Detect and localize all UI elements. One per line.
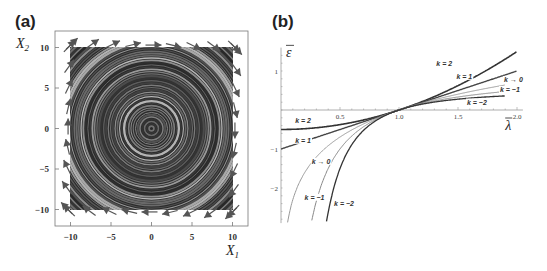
x-tick-label: −5	[106, 232, 116, 242]
panel-b-label: (b)	[272, 12, 294, 32]
curve-label: k = −1	[500, 86, 520, 93]
y-tick-label: −1	[271, 146, 279, 154]
series-line-k1	[281, 71, 516, 149]
curve-label: k = −2	[334, 200, 354, 207]
x-tick-label: 0.5	[336, 113, 345, 121]
x-tick-label: 1.5	[454, 113, 463, 121]
y-axis-title: ε	[286, 45, 292, 60]
x-tick-label: 2.0	[513, 113, 522, 121]
y-tick-label: −10	[35, 205, 50, 215]
x-axis-title: X1	[225, 243, 239, 260]
curve-label: k = 1	[295, 137, 311, 144]
y-tick-label: −2	[271, 185, 279, 193]
curve-label: k = 1	[456, 73, 472, 80]
series-line-k2	[281, 52, 516, 130]
y-tick-label: −5	[39, 164, 49, 174]
x-tick-label: 5	[190, 232, 195, 242]
streamline-plot: −10−50510−10−50510 X2 X1	[0, 0, 270, 271]
y-tick-label: 1	[275, 68, 279, 76]
x-tick-label: −10	[63, 232, 78, 242]
series-line-k0	[288, 85, 505, 222]
curve-label: k = −1	[305, 194, 325, 201]
curve-label: k = 2	[295, 117, 311, 124]
series-line-k-2	[327, 96, 505, 221]
series-line-k-1	[312, 92, 505, 221]
curve-label: k → 0	[504, 76, 523, 83]
y-tick-label: 10	[40, 43, 50, 53]
x-tick-label: 0	[149, 232, 154, 242]
curve-label: k = 2	[436, 60, 452, 67]
y-axis-title: X2	[15, 36, 30, 53]
y-tick-label: 5	[45, 83, 50, 93]
y-tick-label: 0	[45, 124, 50, 134]
curve-label: k → 0	[312, 158, 331, 165]
x-tick-label: 10	[228, 232, 238, 242]
x-tick-label: 1.0	[395, 113, 404, 121]
curve-label: k = −2	[467, 99, 487, 106]
x-axis-title: λ	[504, 118, 511, 133]
